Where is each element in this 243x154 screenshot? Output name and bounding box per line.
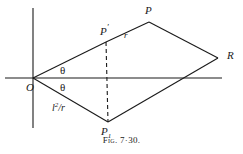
- segment-o-p1: [33, 78, 108, 122]
- figure-caption: Fig. 7·30.: [0, 135, 243, 145]
- label-frac-denominator: /r: [58, 102, 65, 113]
- segment-p1-r: [108, 58, 218, 122]
- segment-p-r: [149, 22, 218, 58]
- label-p-top: P: [145, 5, 152, 16]
- label-r-side: r: [124, 31, 128, 40]
- label-p-prime: P′: [100, 26, 109, 37]
- label-origin-o: O: [26, 82, 34, 93]
- segment-o-pprime: [33, 42, 106, 78]
- geometry-diagram: [0, 0, 243, 154]
- label-p-prime-mark: ′: [107, 22, 109, 32]
- label-theta-upper: θ: [60, 65, 65, 76]
- label-l-squared-over-r: l2/r: [52, 103, 65, 113]
- label-theta-lower: θ: [60, 82, 65, 93]
- dashed-segment-pprime-p1: [106, 42, 108, 122]
- label-p-prime-base: P: [100, 25, 107, 37]
- label-r-vertex: R: [227, 50, 234, 61]
- figure-container: O P′ P r R P1 θ θ l2/r Fig. 7·30.: [0, 0, 243, 154]
